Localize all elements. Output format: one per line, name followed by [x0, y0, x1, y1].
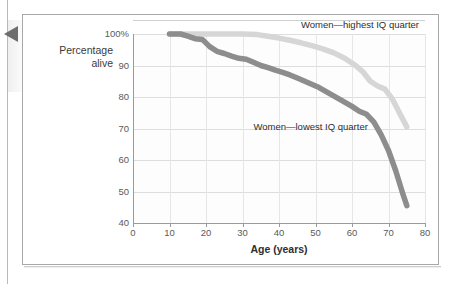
series-annotation-lowest-iq: Women—lowest IQ quarter — [253, 121, 367, 132]
y-tick-label: 100% — [85, 28, 129, 39]
x-tick-mark — [243, 223, 244, 227]
x-tick-label: 60 — [337, 227, 367, 238]
x-tick-mark — [133, 223, 134, 227]
figure-frame: Percentage alive 100%9080706050400102030… — [22, 14, 439, 265]
x-tick-label: 20 — [191, 227, 221, 238]
y-tick-label: 90 — [85, 60, 129, 71]
y-axis-title-line1: Percentage — [59, 44, 113, 56]
plot-area: 100%90807060504001020304050607080 Women—… — [133, 34, 425, 223]
series-annotation-highest-iq: Women—highest IQ quarter — [301, 19, 419, 30]
x-tick-mark — [352, 223, 353, 227]
x-gridline — [425, 34, 426, 223]
x-tick-label: 40 — [264, 227, 294, 238]
y-tick-label: 70 — [85, 123, 129, 134]
left-triangle-marker-icon — [4, 26, 18, 42]
y-tick-label: 80 — [85, 91, 129, 102]
x-tick-label: 0 — [118, 227, 148, 238]
series-line-highest-iq — [170, 34, 407, 127]
x-tick-mark — [316, 223, 317, 227]
figure-frame-shadow — [24, 266, 441, 268]
y-tick-label: 60 — [85, 154, 129, 165]
x-tick-label: 50 — [301, 227, 331, 238]
x-tick-label: 70 — [374, 227, 404, 238]
x-tick-mark — [170, 223, 171, 227]
series-line-lowest-iq — [170, 34, 407, 206]
x-tick-label: 30 — [228, 227, 258, 238]
y-tick-label: 50 — [85, 186, 129, 197]
x-tick-mark — [389, 223, 390, 227]
x-axis-title: Age (years) — [133, 243, 425, 255]
x-tick-mark — [206, 223, 207, 227]
x-tick-label: 80 — [410, 227, 440, 238]
x-tick-mark — [279, 223, 280, 227]
screenshot-root: Percentage alive 100%9080706050400102030… — [0, 0, 463, 284]
x-tick-label: 10 — [155, 227, 185, 238]
survival-line-chart: Percentage alive 100%9080706050400102030… — [23, 15, 440, 266]
x-tick-mark — [425, 223, 426, 227]
